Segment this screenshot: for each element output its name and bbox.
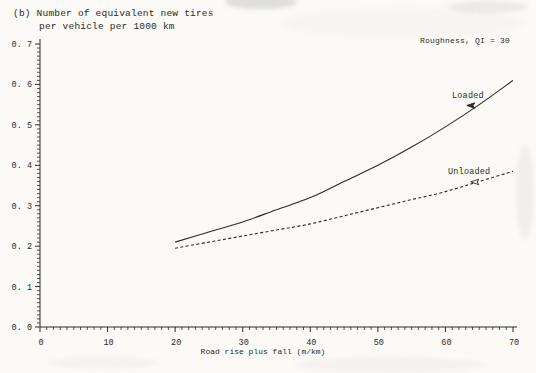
x-tick-label: 10: [103, 338, 113, 348]
y-tick-label: 0. 5: [12, 121, 32, 131]
chart-title: (b) Number of equivalent new tires per v…: [13, 7, 214, 33]
y-tick-label: 0. 3: [12, 202, 32, 212]
loaded-marker: [467, 103, 475, 109]
chart-title-line1: (b) Number of equivalent new tires: [13, 7, 214, 20]
y-tick-label: 0. 4: [12, 161, 32, 171]
plot-area: 0. 00. 10. 20. 30. 40. 50. 60. 701020304…: [0, 0, 536, 373]
loaded-curve: [175, 80, 513, 242]
x-axis-title: Road rise plus fall (m/km): [197, 347, 329, 356]
x-tick-label: 50: [374, 338, 384, 348]
series-label-loaded: Loaded: [452, 91, 484, 101]
x-tick-label: 60: [441, 338, 451, 348]
chart-title-line2: per vehicle per 1000 km: [39, 20, 214, 33]
x-tick-label: 0: [38, 338, 43, 348]
y-tick-label: 0. 2: [12, 242, 32, 252]
y-tick-label: 0. 7: [12, 40, 32, 50]
unloaded-curve: [175, 171, 513, 248]
series-label-unloaded: Unloaded: [448, 167, 490, 177]
y-tick-label: 0. 1: [12, 283, 32, 293]
scanned-chart-page: 0. 00. 10. 20. 30. 40. 50. 60. 701020304…: [0, 0, 536, 373]
y-tick-label: 0. 6: [12, 80, 32, 90]
y-tick-label: 0. 0: [12, 323, 32, 333]
roughness-annotation: Roughness, QI = 30: [420, 36, 510, 45]
x-tick-label: 20: [171, 338, 181, 348]
x-tick-label: 70: [509, 338, 519, 348]
